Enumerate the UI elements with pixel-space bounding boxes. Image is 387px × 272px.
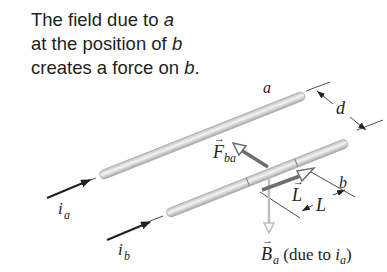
length-dimension-label: L — [315, 195, 326, 215]
wire-b-label: b — [339, 174, 347, 191]
force-arrow — [233, 143, 268, 167]
current-a-arrow — [47, 180, 90, 198]
current-a-label: i a — [58, 199, 70, 222]
svg-text:(due to ia): (due to ia) — [279, 245, 352, 267]
length-vector-label: → L — [291, 175, 304, 205]
current-b-label: i b — [118, 240, 130, 263]
svg-text:i: i — [58, 199, 63, 218]
svg-text:ba: ba — [224, 151, 236, 165]
svg-text:a: a — [64, 208, 70, 222]
current-b-arrow — [107, 222, 150, 240]
wire-a-label: a — [263, 79, 271, 96]
svg-text:b: b — [124, 249, 130, 263]
svg-text:L: L — [291, 185, 302, 205]
force-label: → F ba — [212, 132, 236, 165]
separation-label: d — [336, 98, 346, 118]
field-label: → B a (due to ia) — [261, 234, 352, 267]
svg-text:i: i — [118, 240, 123, 259]
svg-text:B: B — [261, 244, 272, 264]
diagram: a b d i a i b → F ba → L L → B a (due to… — [0, 0, 387, 272]
